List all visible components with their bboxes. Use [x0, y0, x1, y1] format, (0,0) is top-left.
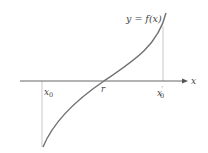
curve-label: y = f(x): [125, 13, 162, 24]
x-axis-arrow-icon: [182, 79, 188, 84]
x0-label: x0: [44, 87, 53, 99]
function-curve: [43, 13, 166, 147]
x-axis-label: x: [191, 76, 196, 86]
x0-prime-label: x′0: [157, 85, 164, 100]
root-label: r: [101, 84, 106, 94]
newton-method-diagram: y = f(x) x r x0 x′0: [0, 0, 208, 153]
